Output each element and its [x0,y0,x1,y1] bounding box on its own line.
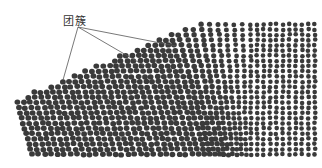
leader-lines [0,0,322,168]
cluster-label: 团簇 [63,12,87,28]
cluster-figure: 团簇 [0,0,322,168]
